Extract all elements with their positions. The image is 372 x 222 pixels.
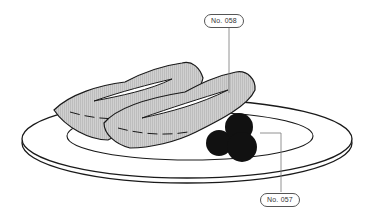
callout-label-no-058: No. 058 bbox=[204, 14, 244, 28]
food-illustration bbox=[0, 0, 372, 222]
blackberry bbox=[227, 132, 257, 162]
callout-label-no-057: No. 057 bbox=[260, 193, 300, 207]
